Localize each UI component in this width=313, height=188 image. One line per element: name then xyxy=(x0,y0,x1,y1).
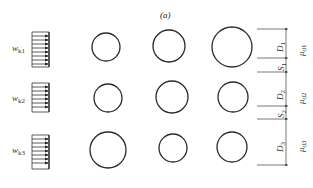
circle-r3-c1 xyxy=(90,132,126,168)
load-label-1: wk1 xyxy=(12,43,25,55)
load-label-3: wk3 xyxy=(12,145,25,157)
dimension-label-d3: D3 xyxy=(275,142,287,152)
circle-r2-c3 xyxy=(218,82,248,112)
load-block-3 xyxy=(32,135,49,169)
dimension-label-d1: D1 xyxy=(275,42,287,52)
load-label-2: wk2 xyxy=(12,93,25,105)
circle-r1-c2 xyxy=(153,30,185,62)
spacing-label-s2: S2 xyxy=(276,110,288,118)
mu-label-2: μd2 xyxy=(296,92,308,104)
circle-r1-c3 xyxy=(212,27,252,67)
spacing-label-s1: S1 xyxy=(276,63,288,71)
load-block-2 xyxy=(32,83,49,112)
diagram-canvas xyxy=(0,0,313,188)
circle-r3-c2 xyxy=(159,134,187,162)
circle-r2-c2 xyxy=(156,81,188,113)
dimension-label-d2: D2 xyxy=(275,90,287,100)
circle-r1-c1 xyxy=(92,33,120,61)
load-block-1 xyxy=(32,32,49,67)
circle-r3-c3 xyxy=(217,132,247,162)
circle-r2-c1 xyxy=(94,84,122,112)
mu-label-1: μd1 xyxy=(296,44,308,56)
figure-caption: (a) xyxy=(160,10,171,20)
circle-grid xyxy=(90,27,252,168)
mu-label-3: μd3 xyxy=(296,140,308,152)
